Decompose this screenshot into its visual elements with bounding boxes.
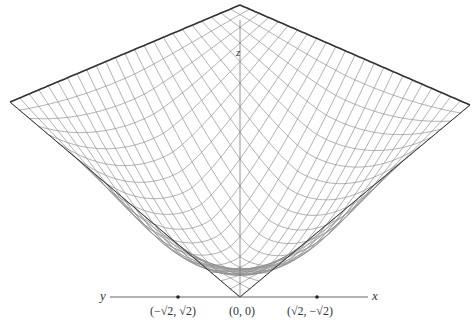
point-label-origin: (0, 0) [229, 304, 255, 319]
point-label-right: (√2, −√2) [287, 304, 333, 319]
z-axis-label: z [236, 46, 240, 58]
point-label-left: (−√2, √2) [150, 304, 196, 319]
point-marker-left [176, 295, 180, 299]
y-axis-label: y [100, 288, 106, 304]
x-axis-label: x [372, 288, 378, 304]
point-marker-right [315, 295, 319, 299]
